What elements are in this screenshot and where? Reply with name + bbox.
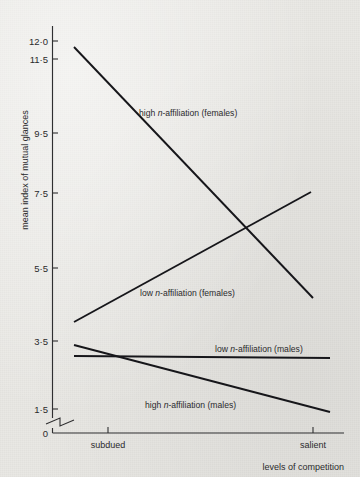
series-label-high-n-affiliation-males: high n-affiliation (males) <box>145 400 236 410</box>
y-tick-label-7-5: 7·5 <box>34 188 48 199</box>
series-line-low-n-affiliation-females <box>74 192 311 322</box>
y-tick-label-9-5: 9·5 <box>34 128 48 139</box>
y-axis-break-icon <box>46 418 74 426</box>
y-tick-label-3-5: 3·5 <box>34 336 48 347</box>
series-label-high-n-affiliation-females: high n-affiliation (females) <box>139 108 237 118</box>
series-label-high-f-suffix: -affiliation (females) <box>162 108 237 118</box>
y-tick-label-5-5: 5·5 <box>34 263 48 274</box>
x-axis-title: levels of competition <box>262 462 344 472</box>
series-label-low-f-suffix: -affiliation (females) <box>160 288 235 298</box>
series-label-low-n-affiliation-males: low n-affiliation (males) <box>215 344 303 354</box>
series-label-high-m-prefix: high <box>145 400 164 410</box>
figure-container: 12·0 11·5 9·5 7·5 5·5 3·5 1·5 0 mean ind… <box>0 0 360 477</box>
series-label-low-n-affiliation-females: low n-affiliation (females) <box>140 288 235 298</box>
series-line-low-n-affiliation-males <box>74 356 330 358</box>
y-axis-title: mean index of mutual glances <box>20 110 30 230</box>
y-axis-ticks <box>53 41 59 409</box>
y-tick-label-12-0: 12·0 <box>29 36 48 47</box>
x-tick-label-salient: salient <box>300 440 327 450</box>
y-tick-label-11-5: 11·5 <box>30 54 48 65</box>
series-line-high-n-affiliation-females <box>74 47 313 298</box>
y-tick-label-1-5: 1·5 <box>34 404 48 415</box>
series-label-high-m-suffix: -affiliation (males) <box>168 400 236 410</box>
series-label-high-f-prefix: high <box>139 108 158 118</box>
y-axis <box>46 26 74 433</box>
x-axis <box>53 427 345 433</box>
line-chart: 12·0 11·5 9·5 7·5 5·5 3·5 1·5 0 mean ind… <box>0 0 360 477</box>
series-label-low-m-suffix: -affiliation (males) <box>235 344 303 354</box>
series-label-low-m-prefix: low <box>215 344 230 354</box>
series-label-low-f-prefix: low <box>140 288 155 298</box>
x-tick-label-subdued: subdued <box>91 440 126 450</box>
y-axis-tick-labels: 12·0 11·5 9·5 7·5 5·5 3·5 1·5 0 <box>29 36 48 440</box>
y-axis-origin-label: 0 <box>43 428 48 439</box>
